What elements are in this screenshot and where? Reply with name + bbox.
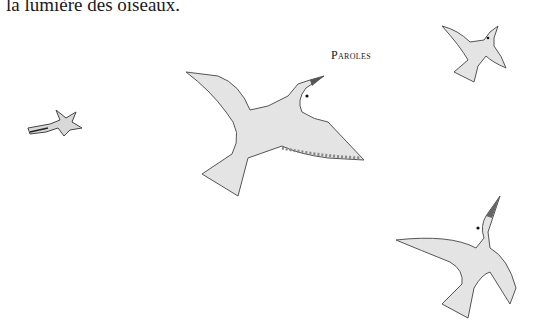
small-bird-left-illustration	[26, 106, 86, 138]
large-gull-illustration	[178, 66, 368, 206]
bird-bottom-right-illustration	[390, 192, 520, 320]
running-header: Paroles	[331, 48, 371, 63]
body-text-line: la lumière des oiseaux.	[6, 0, 180, 16]
bird-top-right-illustration	[440, 22, 510, 86]
